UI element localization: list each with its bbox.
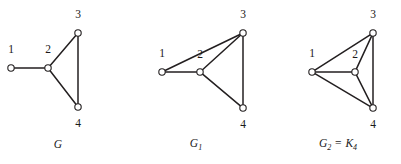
graph-vertex-1 [8,65,14,71]
graph-vertex-4 [75,104,81,110]
vertex-label-G1-3: 3 [240,9,246,21]
graph-caption-G1: G1 [190,138,202,152]
caption-tail-subscript: 4 [353,143,357,152]
vertex-label-G2-1: 1 [309,48,315,60]
graph-vertex-1 [309,69,315,75]
graph-vertex-4 [370,105,376,111]
graph-edge-2-3 [50,36,76,66]
vertex-label-G1-2: 2 [197,49,203,61]
vertex-label-G-2: 2 [45,44,51,56]
vertex-label-G2-3: 3 [370,9,376,21]
caption-equals: = [331,137,345,149]
caption-base: G [54,138,62,150]
graph-vertex-1 [159,69,165,75]
graph-caption-G2: G2 = K4 [319,138,357,152]
graph-vertex-2 [197,69,203,75]
graph-vertex-4 [240,105,246,111]
graph-G [8,30,81,110]
caption-subscript: 1 [198,143,202,152]
graph-edge-2-4 [50,71,76,105]
graph-edge-2-3 [356,36,371,69]
graph-G2 [309,30,376,111]
graph-edge-1-3 [315,35,370,70]
graph-edge-1-4 [315,74,370,107]
graph-vertex-2 [45,65,51,71]
graph-vertex-3 [370,30,376,36]
graph-vertex-2 [352,69,358,75]
vertex-label-G2-2: 2 [352,49,358,61]
graph-G1 [159,30,246,111]
vertex-label-G1-1: 1 [159,48,165,60]
graph-vertex-3 [240,30,246,36]
vertex-label-G-3: 3 [75,9,81,21]
graph-edge-2-4 [357,75,372,105]
vertex-label-G1-4: 4 [240,119,246,131]
graph-edge-2-3 [203,35,241,69]
graph-caption-G: G [54,139,62,151]
vertex-label-G2-4: 4 [370,119,376,131]
graph-figure: 1234G1234G11234G2 = K4 [0,0,401,164]
vertex-label-G-1: 1 [8,44,14,56]
graph-edge-2-4 [203,74,241,106]
graph-vertex-3 [75,30,81,36]
vertex-label-G-4: 4 [75,118,81,130]
